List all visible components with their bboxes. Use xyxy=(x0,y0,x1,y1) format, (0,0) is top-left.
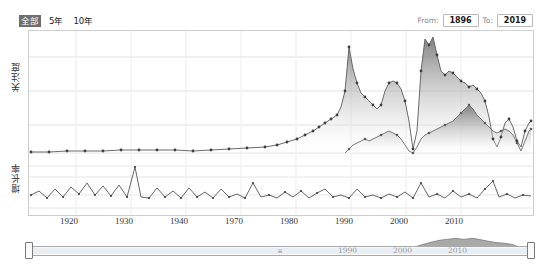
navigator-tick-2000: 2000 xyxy=(393,246,412,255)
range-tab-group: 全部 5年 10年 xyxy=(19,15,95,27)
to-label: To: xyxy=(483,16,493,25)
x-tick-2010: 2010 xyxy=(445,216,463,226)
x-tick-1990: 1990 xyxy=(335,216,353,226)
range-tab-5y[interactable]: 5年 xyxy=(47,15,65,27)
y-axis-title-growth: 增长率 xyxy=(8,163,21,193)
navigator-grip-icon[interactable]: ≡ xyxy=(276,249,284,252)
navigator-right-handle[interactable] xyxy=(527,242,535,259)
toolbar: 全部 5年 10年 From: 1896 To: 2019 xyxy=(0,0,539,32)
from-label: From: xyxy=(417,16,438,25)
growth-rate-line xyxy=(31,167,531,198)
x-tick-1920: 1920 xyxy=(60,216,78,226)
x-tick-1980: 1980 xyxy=(280,216,298,226)
navigator-left-handle[interactable] xyxy=(25,242,33,259)
x-tick-2000: 2000 xyxy=(390,216,408,226)
navigator-tick-2010: 2010 xyxy=(448,246,467,255)
range-tab-10y[interactable]: 10年 xyxy=(71,15,95,27)
navigator-tick-1990: 1990 xyxy=(338,246,357,255)
gridlines-lower xyxy=(29,166,533,208)
to-year-input[interactable]: 2019 xyxy=(497,14,533,27)
from-year-input[interactable]: 1896 xyxy=(443,14,479,27)
chart-canvas xyxy=(29,31,533,215)
range-tab-all[interactable]: 全部 xyxy=(19,15,41,27)
chart-plot-area[interactable] xyxy=(28,30,534,216)
chart-svg xyxy=(29,31,533,215)
x-tick-1940: 1940 xyxy=(170,216,188,226)
date-range-controls: From: 1896 To: 2019 xyxy=(417,14,533,27)
y-axis-title-attention: 关注度 xyxy=(8,62,21,92)
x-tick-1970: 1970 xyxy=(225,216,243,226)
x-tick-1930: 1930 xyxy=(115,216,133,226)
trend-chart-app: 全部 5年 10年 From: 1896 To: 2019 关注度 增长率 15… xyxy=(0,0,539,266)
